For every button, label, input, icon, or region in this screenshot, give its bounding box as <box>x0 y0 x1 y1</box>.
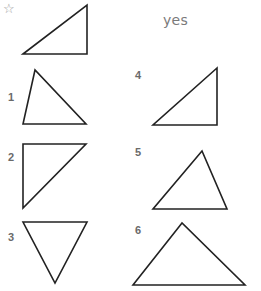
example-triangle <box>23 5 87 54</box>
triangle-3 <box>23 222 87 283</box>
triangle-4 <box>153 68 217 125</box>
triangle-5 <box>153 151 227 209</box>
triangle-1 <box>23 70 86 124</box>
worksheet: ☆ yes 1 2 3 4 5 6 <box>0 0 261 291</box>
triangle-2 <box>23 144 86 208</box>
triangle-6 <box>133 223 245 285</box>
triangles-drawing <box>0 0 261 291</box>
